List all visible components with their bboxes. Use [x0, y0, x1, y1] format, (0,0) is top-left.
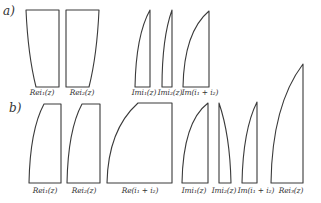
- current-distribution-diagram: a) b) Rei₁(z) Rei₂(z) Imi₁(z) Imi₂(z) Im…: [0, 0, 321, 203]
- label-a-rei1: Rei₁(z): [30, 88, 55, 97]
- shape-a-imi1: [135, 10, 150, 87]
- label-b-im-sum: Im(i₁ + i₂): [238, 186, 275, 195]
- shape-a-rei1: [26, 10, 59, 87]
- shape-b-im-sum: [242, 102, 257, 183]
- label-b-rei2: Rei₂(z): [72, 186, 97, 195]
- label-b-re-sum: Re(i₁ + i₂): [122, 186, 159, 195]
- row-b-label: b): [9, 101, 21, 115]
- label-a-im-sum: Im(i₁ + i₂): [182, 88, 219, 97]
- shape-b-re-sum: [107, 103, 172, 183]
- label-b-imi2: Imi₂(z): [212, 186, 237, 195]
- shape-b-rei3: [271, 64, 303, 183]
- label-a-imi1: Imi₁(z): [132, 88, 157, 97]
- label-b-rei3: Rei₃(z): [279, 186, 304, 195]
- shape-b-imi1: [182, 103, 208, 183]
- label-b-imi1: Imi₁(z): [182, 186, 207, 195]
- label-b-rei1: Rei₁(z): [33, 186, 58, 195]
- shape-a-rei2: [66, 10, 99, 87]
- shape-b-rei1: [29, 104, 61, 183]
- shape-a-imi2: [162, 10, 172, 87]
- diagram-shapes: [0, 0, 321, 203]
- shape-b-rei2: [67, 104, 100, 183]
- shape-a-im-sum: [183, 11, 209, 87]
- label-a-rei2: Rei₂(z): [70, 88, 95, 97]
- shape-b-imi2: [219, 103, 231, 183]
- label-a-imi2: Imi₂(z): [158, 88, 183, 97]
- row-a-label: a): [3, 4, 15, 18]
